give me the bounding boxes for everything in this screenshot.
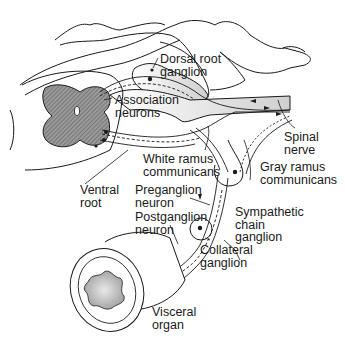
label-sympathetic-chain-ganglion: Sympathetic chain ganglion: [235, 206, 304, 244]
diagram-canvas: Dorsal root ganglion Association neurons…: [0, 0, 345, 346]
label-gray-ramus-communicans: Gray ramus communicans: [260, 161, 337, 186]
label-preganglion-neuron: Preganglion neuron: [135, 184, 202, 209]
central-canal: [75, 107, 80, 116]
label-association-neurons: Association neurons: [115, 94, 179, 119]
label-white-ramus-communicans: White ramus communicans: [143, 153, 220, 178]
label-visceral-organ: Visceral organ: [152, 306, 196, 331]
label-dorsal-root-ganglion: Dorsal root ganglion: [160, 53, 221, 78]
label-postganglion-neuron: Postganglion neuron: [135, 211, 207, 236]
label-collateral-ganglion: Collateral ganglion: [200, 244, 253, 269]
label-ventral-root: Ventral root: [80, 184, 119, 209]
label-spinal-nerve: Spinal nerve: [284, 131, 319, 156]
